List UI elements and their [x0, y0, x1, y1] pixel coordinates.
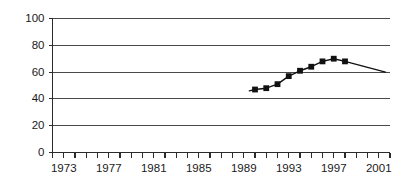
chart-container: 020406080100 197319771981198519891993199… [0, 0, 408, 196]
y-tick-label-40: 40 [32, 92, 45, 104]
data-point-1992 [275, 81, 281, 87]
x-tick-label-1973: 1973 [51, 162, 77, 174]
x-tick-label-2001: 2001 [366, 162, 392, 174]
x-axis-tick-labels: 19731977198119851989199319972001 [51, 162, 392, 174]
data-point-1998 [342, 58, 348, 64]
y-tick-label-60: 60 [32, 66, 45, 78]
series-line-1 [249, 59, 385, 91]
series-markers-1 [252, 56, 348, 93]
y-axis-tick-labels: 020406080100 [25, 12, 44, 158]
x-tick-label-1981: 1981 [141, 162, 167, 174]
data-point-1990 [252, 87, 258, 93]
x-tick-label-1993: 1993 [276, 162, 302, 174]
data-point-1995 [308, 64, 314, 70]
x-tick-label-1985: 1985 [186, 162, 212, 174]
data-point-1991 [263, 85, 269, 91]
data-point-1993 [286, 73, 292, 79]
x-axis-tick-marks [53, 153, 391, 158]
data-point-1996 [320, 58, 326, 64]
y-tick-label-0: 0 [38, 146, 44, 158]
x-tick-label-1997: 1997 [321, 162, 347, 174]
x-tick-label-1989: 1989 [231, 162, 257, 174]
line-chart: 020406080100 197319771981198519891993199… [0, 0, 408, 196]
y-tick-label-80: 80 [32, 39, 45, 51]
gridlines [53, 19, 391, 153]
y-tick-label-100: 100 [25, 12, 44, 24]
x-tick-label-1977: 1977 [96, 162, 122, 174]
data-point-1997 [331, 56, 337, 62]
y-tick-label-20: 20 [32, 119, 45, 131]
data-point-1994 [297, 68, 303, 74]
